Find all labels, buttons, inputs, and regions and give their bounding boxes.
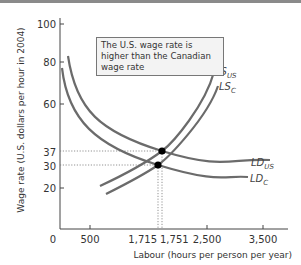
- y-tick-30: 30: [43, 161, 56, 172]
- y-axis-title: Wage rate (U.S. dollars per hour in 2004…: [16, 27, 26, 212]
- ld-c-label: LDC: [250, 173, 268, 187]
- guide-lines: [60, 151, 162, 229]
- us-equilibrium-point: [158, 147, 165, 154]
- y-tick-100: 100: [37, 19, 56, 30]
- ld-us-label: LDUS: [251, 157, 274, 171]
- x-axis-title: Labour (hours per person per year): [133, 250, 292, 260]
- origin-label: 0: [50, 234, 56, 245]
- ls-c-label: LSC: [219, 81, 236, 95]
- x-tick-1715: 1,715: [128, 234, 157, 245]
- y-tick-20: 20: [43, 183, 56, 194]
- ls-us-curve: [100, 72, 214, 186]
- x-tick-3500: 3,500: [249, 234, 278, 245]
- y-ticks: [60, 24, 64, 188]
- x-tick-2500: 2,500: [193, 234, 222, 245]
- x-tick-500: 500: [80, 234, 99, 245]
- y-tick-37: 37: [43, 147, 56, 158]
- canada-equilibrium-point: [154, 161, 161, 168]
- x-ticks: [90, 225, 263, 229]
- y-tick-80: 80: [43, 57, 56, 68]
- y-tick-60: 60: [43, 99, 56, 110]
- x-tick-1751: 1,751: [160, 234, 189, 245]
- annotation-box: The U.S. wage rate is higher than the Ca…: [96, 37, 224, 76]
